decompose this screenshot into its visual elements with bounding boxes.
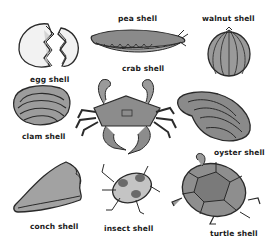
pea-shell-figure: pea shell [90,14,190,54]
pea-shell-label: pea shell [118,14,157,23]
turtle-shell-label: turtle shell [210,229,258,238]
conch-shell-figure: conch shell [6,160,86,236]
conch-icon [6,160,86,214]
ladybug-icon [96,160,166,216]
oyster-shell-figure: oyster shell [174,90,266,160]
conch-shell-label: conch shell [30,222,78,231]
insect-shell-figure: insect shell [96,160,172,236]
crab-shell-label: crab shell [122,64,164,73]
pea-pod-icon [90,26,190,56]
turtle-shell-figure: turtle shell [164,152,266,243]
oyster-icon [174,90,254,144]
insect-shell-label: insect shell [104,224,153,233]
walnut-shell-figure: walnut shell [196,14,266,74]
crab-shell-figure: crab shell [74,64,180,160]
shell-illustration-sheet: egg shell pea shell walnut shell crab sh… [0,0,266,243]
clam-shell-figure: clam shell [10,82,80,146]
clam-shell-label: clam shell [22,132,66,141]
clam-icon [10,82,72,128]
walnut-shell-label: walnut shell [202,14,255,23]
walnut-icon [202,26,258,78]
turtle-icon [164,152,264,226]
crab-icon [74,74,180,158]
